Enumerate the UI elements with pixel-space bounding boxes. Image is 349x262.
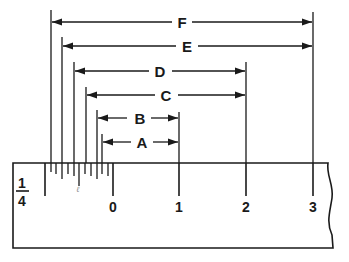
ruler-body xyxy=(13,163,333,248)
label-B: B xyxy=(135,110,146,127)
svg-text:1: 1 xyxy=(18,175,26,191)
extension-lines xyxy=(51,10,313,163)
label-D: D xyxy=(155,63,166,80)
label-E: E xyxy=(182,38,192,55)
scale-number-0: 0 xyxy=(109,199,117,215)
scale-number-2: 2 xyxy=(242,199,250,215)
ruler-diagram: ℓ 1 4 0 1 2 3 F E xyxy=(0,0,349,262)
scale-number-1: 1 xyxy=(175,199,183,215)
label-F: F xyxy=(177,14,186,31)
label-C: C xyxy=(161,87,172,104)
label-A: A xyxy=(137,134,148,151)
svg-text:4: 4 xyxy=(18,193,26,209)
scale-number-3: 3 xyxy=(309,199,317,215)
